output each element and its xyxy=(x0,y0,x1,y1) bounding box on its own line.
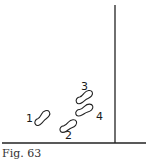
footprint-label-4: 4 xyxy=(96,110,103,123)
figure-caption: Fig. 63 xyxy=(2,147,41,160)
figure-canvas: 1234 Fig. 63 xyxy=(0,0,153,162)
footprint-1-icon xyxy=(32,109,52,127)
footprints-group: 1234 xyxy=(26,80,103,142)
footprint-label-2: 2 xyxy=(65,129,72,142)
footprint-label-3: 3 xyxy=(81,80,88,93)
diagram-svg: 1234 xyxy=(0,0,153,162)
footprint-label-1: 1 xyxy=(26,112,33,125)
footprint-4-icon xyxy=(74,103,94,117)
